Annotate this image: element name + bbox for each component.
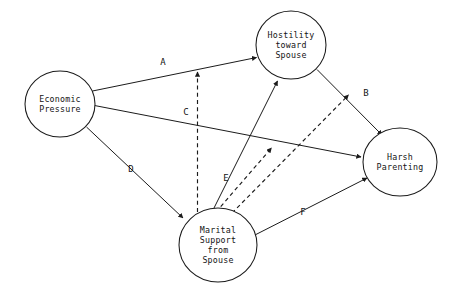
hostility-toward-spouse-label-line1: Hostility	[268, 30, 315, 40]
path-a-label: A	[160, 57, 166, 67]
path-f-label: F	[300, 207, 305, 217]
path-b-line	[317, 70, 382, 136]
marital-support-label-line3: from	[208, 245, 229, 255]
path-d-label: D	[128, 164, 133, 174]
edge-moderation-on-path-b[interactable]	[232, 95, 349, 213]
path-c-label: C	[183, 107, 188, 117]
path-f-line	[250, 178, 367, 238]
edge-path-f[interactable]: F	[250, 178, 367, 238]
marital-support-label-line2: Support	[200, 235, 236, 245]
hostility-toward-spouse-label-line2: toward	[275, 40, 306, 50]
node-marital-support-from-spouse[interactable]: Marital Support from Spouse	[179, 208, 257, 282]
path-diagram-canvas: A C D B E F	[0, 0, 449, 292]
edge-path-c[interactable]: C	[95, 106, 362, 158]
path-e-label: E	[223, 173, 228, 183]
edge-path-d[interactable]: D	[87, 127, 184, 218]
harsh-parenting-label-line1: Harsh	[387, 152, 413, 162]
edge-path-e[interactable]: E	[214, 81, 278, 208]
node-harsh-parenting[interactable]: Harsh Parenting	[363, 128, 437, 196]
path-e-line	[214, 81, 278, 208]
moderation-b-line	[232, 95, 349, 213]
hostility-toward-spouse-label-line3: Spouse	[275, 50, 306, 60]
economic-pressure-label-line1: Economic	[39, 94, 81, 104]
marital-support-label-line1: Marital	[200, 225, 236, 235]
harsh-parenting-label-line2: Parenting	[377, 162, 424, 172]
path-c-line	[95, 106, 362, 158]
path-a-line	[93, 58, 257, 92]
node-hostility-toward-spouse[interactable]: Hostility toward Spouse	[256, 11, 326, 79]
node-economic-pressure[interactable]: Economic Pressure	[25, 71, 95, 137]
marital-support-label-line4: Spouse	[202, 255, 233, 265]
edge-path-a[interactable]: A	[93, 57, 257, 91]
path-b-label: B	[363, 88, 368, 98]
edge-path-b[interactable]: B	[317, 70, 382, 136]
economic-pressure-label-line2: Pressure	[39, 104, 81, 114]
path-diagram-svg: A C D B E F	[0, 0, 449, 292]
path-d-line	[87, 127, 184, 218]
